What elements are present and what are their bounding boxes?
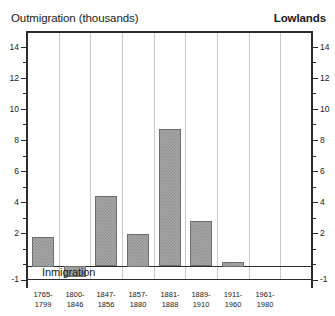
y-tick-0-right [313,264,316,265]
y-minor-tick-9-right [313,124,316,125]
x-label-line2: 1856 [90,300,122,310]
x-label-line2: 1880 [122,300,154,310]
y-tick-label-14-right: 14 [320,43,329,52]
x-label-line1: 1911- [224,290,243,299]
y-tick-label-10-right: 10 [320,105,329,114]
y-tick-2-right [313,233,318,234]
x-label-line1: 1881- [160,290,179,299]
x-label-line1: 1961- [255,290,274,299]
x-axis-label-1911-1960: 1911-1960 [217,290,249,310]
x-axis-label-1800-1846: 1800-1846 [59,290,91,310]
y-tick-label-minus1-right: -1 [320,275,328,284]
bar-1911-1960 [222,262,244,267]
y-tick-0-left [23,264,26,265]
y-tick-label-2-right: 2 [320,229,325,238]
y-tick-12-left [21,78,26,79]
x-label-line2: 1846 [59,300,91,310]
y-tick-4-left [21,202,26,203]
y-tick-label-6-right: 6 [320,167,325,176]
x-axis-label-1847-1856: 1847-1856 [90,290,122,310]
bar-1857-1880 [127,234,149,267]
y-tick-6-right [313,171,318,172]
y-tick-label-8-left: 8 [14,136,19,145]
y-tick-label-12-left: 12 [10,74,19,83]
y-minor-tick-9-left [23,124,26,125]
x-axis-label-1961-1980: 1961-1980 [249,290,281,310]
bar-1847-1856 [95,196,117,266]
x-label-line1: 1857- [128,290,147,299]
y-tick-8-left [21,140,26,141]
y-minor-tick-7-right [313,156,316,157]
y-tick-4-right [313,202,318,203]
chart-header: Outmigration (thousands) Lowlands [0,12,335,30]
x-label-line1: 1889- [191,290,210,299]
y-minor-tick-13-right [313,62,316,63]
y-tick-label-8-right: 8 [320,136,325,145]
y-minor-tick-3-left [23,218,26,219]
x-label-line1: 1765- [33,290,52,299]
inmigration-annotation: Inmigration [42,266,95,278]
x-label-line2: 1888 [154,300,186,310]
outmigration-bar-chart: Outmigration (thousands) Lowlands 141210… [0,0,335,316]
y-minor-tick-1-right [313,249,316,250]
x-axis-label-1881-1888: 1881-1888 [154,290,186,310]
x-label-line1: 1800- [65,290,84,299]
x-axis-label-1765-1799: 1765-1799 [27,290,59,310]
y-tick-minus1-left [21,280,26,281]
bar-1889-1910 [190,221,212,266]
y-tick-label-12-right: 12 [320,74,329,83]
x-axis-label-1857-1880: 1857-1880 [122,290,154,310]
y-minor-tick-11-right [313,93,316,94]
bar-series [27,33,312,279]
bar-1881-1888 [159,129,181,266]
y-tick-12-right [313,78,318,79]
y-axis-right: 1412108642-1 [311,31,313,288]
y-tick-2-left [21,233,26,234]
x-axis-labels: 1765-17991800-18461847-18561857-18801881… [27,290,312,314]
y-minor-tick-7-left [23,156,26,157]
x-label-line2: 1980 [249,300,281,310]
y-minor-tick-11-left [23,93,26,94]
plot-area [27,31,312,280]
bar-1765-1799 [32,237,54,267]
y-tick-label-minus1-left: -1 [11,275,19,284]
region-label: Lowlands [274,12,326,24]
y-tick-label-6-left: 6 [14,167,19,176]
x-label-line2: 1910 [185,300,217,310]
y-axis-left: 1412108642-1 [26,31,28,288]
y-tick-8-right [313,140,318,141]
y-tick-minus1-right [313,280,318,281]
y-tick-label-4-left: 4 [14,198,19,207]
y-tick-label-10-left: 10 [10,105,19,114]
y-tick-label-2-left: 2 [14,229,19,238]
x-label-line2: 1960 [217,300,249,310]
y-minor-tick-13-left [23,62,26,63]
chart-title: Outmigration (thousands) [11,12,138,24]
y-minor-tick-5-left [23,187,26,188]
x-axis-label-1889-1910: 1889-1910 [185,290,217,310]
y-tick-14-left [21,47,26,48]
y-minor-tick-1-left [23,249,26,250]
x-label-line2: 1799 [27,300,59,310]
y-tick-label-14-left: 14 [10,43,19,52]
y-tick-14-right [313,47,318,48]
y-minor-tick-3-right [313,218,316,219]
y-tick-10-left [21,109,26,110]
y-tick-10-right [313,109,318,110]
x-label-line1: 1847- [96,290,115,299]
y-minor-tick-5-right [313,187,316,188]
y-tick-6-left [21,171,26,172]
y-tick-label-4-right: 4 [320,198,325,207]
